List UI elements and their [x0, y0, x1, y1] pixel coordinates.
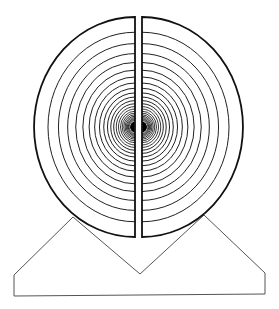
right-half-disk [142, 17, 243, 237]
split-ring-disk-diagram [0, 0, 279, 309]
v-shaped-base [14, 215, 265, 296]
left-half-disk [34, 17, 135, 237]
